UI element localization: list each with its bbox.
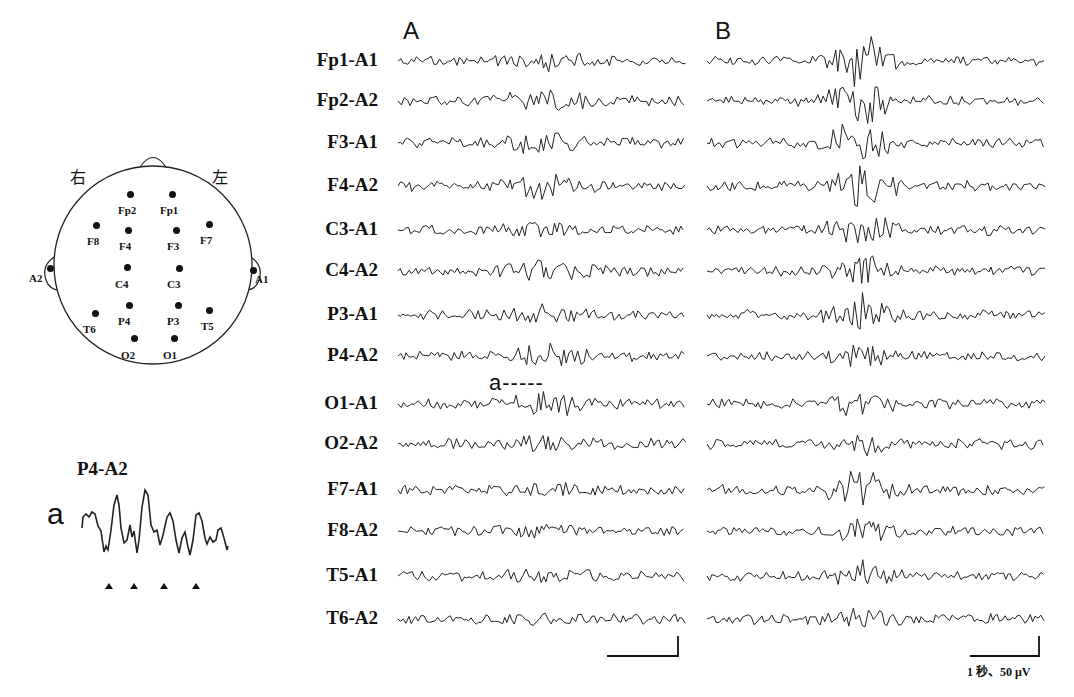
scale-bar-label: 1 秒、50 μV — [967, 662, 1030, 680]
scale-bars — [0, 0, 1074, 697]
scale-bar-a — [607, 636, 678, 656]
scale-bar-b — [970, 636, 1039, 656]
